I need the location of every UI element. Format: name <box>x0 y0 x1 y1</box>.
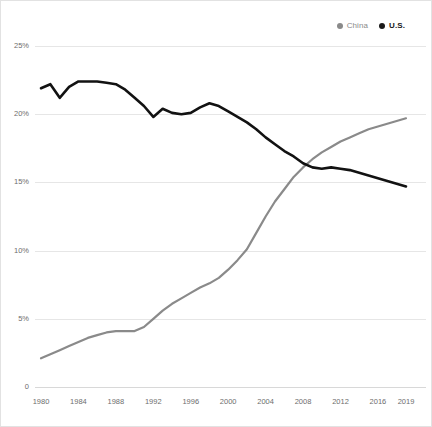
x-axis-tick-label: 1984 <box>70 397 87 406</box>
y-axis-tick-label: 20% <box>14 109 29 118</box>
x-axis-tick-label: 2004 <box>257 397 274 406</box>
x-axis-tick-label: 1996 <box>182 397 199 406</box>
x-axis-tick-label: 1992 <box>145 397 162 406</box>
x-axis-tick-label: 1980 <box>33 397 50 406</box>
x-axis-tick-label: 2016 <box>370 397 387 406</box>
series-line-us <box>41 81 406 186</box>
y-axis-tick-label: 15% <box>14 177 29 186</box>
series-group <box>41 81 406 358</box>
y-axis-tick-labels: 05%10%15%20%25% <box>14 41 29 391</box>
x-axis-tick-label: 1988 <box>108 397 125 406</box>
x-axis-tick-label: 2008 <box>295 397 312 406</box>
x-axis-tick-labels: 1980198419881992199620002004200820122016… <box>33 397 415 406</box>
x-axis-tick-label: 2019 <box>398 397 415 406</box>
series-line-china <box>41 118 406 358</box>
chart-container: China U.S. 05%10%15%20%25% 1980198419881… <box>0 0 432 427</box>
y-axis-tick-label: 5% <box>18 314 29 323</box>
y-axis-tick-label: 10% <box>14 246 29 255</box>
x-axis-tick-label: 2000 <box>220 397 237 406</box>
line-chart-plot: 05%10%15%20%25% 198019841988199219962000… <box>1 1 432 427</box>
y-axis-tick-label: 25% <box>14 41 29 50</box>
x-axis-tick-label: 2012 <box>332 397 349 406</box>
y-axis-tick-label: 0 <box>25 382 29 391</box>
